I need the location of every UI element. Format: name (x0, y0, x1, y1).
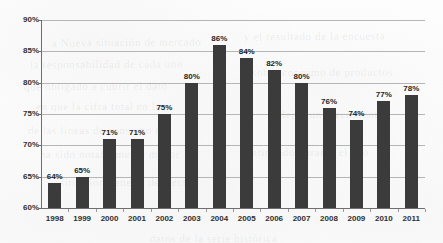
bar-value-label: 86% (211, 35, 227, 43)
bar-value-label: 71% (102, 129, 118, 137)
bar (295, 83, 308, 208)
bar-chart: 60%65%70%75%80%85%90% 64%65%71%71%75%80%… (0, 0, 443, 243)
y-axis-tick-label: 75% (5, 110, 39, 118)
bar-value-label: 64% (47, 173, 63, 181)
x-axis-tick-mark (315, 209, 316, 212)
bar (377, 101, 390, 208)
x-axis-tick-mark (343, 209, 344, 212)
y-axis-tick-mark (38, 20, 41, 21)
bar-value-label: 78% (403, 85, 419, 93)
bar-column: 71% (131, 139, 144, 208)
x-axis-tick-mark (123, 209, 124, 212)
bar-value-label: 65% (74, 167, 90, 175)
bar (103, 139, 116, 208)
x-axis-tick-mark (68, 209, 69, 212)
bar-column: 77% (377, 101, 390, 208)
y-axis-tick-label: 90% (5, 16, 39, 24)
bar (350, 120, 363, 208)
bar-column: 64% (48, 183, 61, 208)
bar (48, 183, 61, 208)
x-axis-tick-mark (370, 209, 371, 212)
x-axis-tick-mark (233, 209, 234, 212)
bar (185, 83, 198, 208)
y-axis-tick-label: 80% (5, 79, 39, 87)
bar-column: 75% (158, 114, 171, 208)
y-axis-tick-label: 65% (5, 173, 39, 181)
bar (405, 95, 418, 208)
y-axis-tick-labels: 60%65%70%75%80%85%90% (0, 0, 39, 243)
x-axis-tick-mark (151, 209, 152, 212)
bar-column: 80% (295, 83, 308, 208)
bar (213, 45, 226, 208)
bar-value-label: 80% (294, 73, 310, 81)
y-axis-tick-mark (38, 51, 41, 52)
bar-value-label: 80% (184, 73, 200, 81)
bar-column: 76% (323, 108, 336, 208)
bar-value-label: 76% (321, 98, 337, 106)
bar (76, 177, 89, 208)
y-axis-tick-mark (38, 83, 41, 84)
x-axis-tick-mark (260, 209, 261, 212)
x-axis-tick-mark (206, 209, 207, 212)
y-axis-tick-mark (38, 208, 41, 209)
bar-column: 80% (185, 83, 198, 208)
chart-bars: 64%65%71%71%75%80%86%84%82%80%76%74%77%7… (41, 20, 425, 208)
bar-column: 74% (350, 120, 363, 208)
bar-column: 84% (240, 58, 253, 208)
x-axis-tick-mark (178, 209, 179, 212)
x-axis-tick-label: 2011 (394, 214, 428, 223)
y-axis-tick-mark (38, 114, 41, 115)
bar (268, 70, 281, 208)
y-axis-tick-label: 85% (5, 47, 39, 55)
bar-value-label: 71% (129, 129, 145, 137)
x-axis-tick-mark (96, 209, 97, 212)
bar-column: 78% (405, 95, 418, 208)
x-axis-tick-mark (398, 209, 399, 212)
bar-column: 71% (103, 139, 116, 208)
bar (240, 58, 253, 208)
bar-value-label: 84% (239, 48, 255, 56)
bar-column: 65% (76, 177, 89, 208)
y-axis-tick-label: 60% (5, 204, 39, 212)
y-axis-tick-mark (38, 145, 41, 146)
bar-value-label: 77% (376, 91, 392, 99)
x-axis-tick-mark (425, 209, 426, 212)
x-axis-tick-mark (288, 209, 289, 212)
bar-value-label: 75% (156, 104, 172, 112)
y-axis-tick-mark (38, 177, 41, 178)
bar (158, 114, 171, 208)
bar (131, 139, 144, 208)
bar-column: 82% (268, 70, 281, 208)
bar (323, 108, 336, 208)
bar-value-label: 74% (348, 110, 364, 118)
y-axis-tick-label: 70% (5, 141, 39, 149)
bar-value-label: 82% (266, 60, 282, 68)
bar-column: 86% (213, 45, 226, 208)
